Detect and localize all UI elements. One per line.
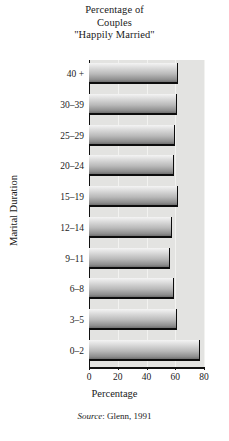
x-axis-tick (147, 367, 148, 370)
y-axis-tick-label: 3–5 (34, 309, 84, 333)
y-axis-tick-label: 30–39 (34, 94, 84, 118)
bar-row (89, 63, 204, 87)
bar (89, 309, 177, 330)
chart-title-line-3: "Happily Married" (0, 29, 229, 42)
bar (89, 94, 177, 115)
y-axis-tick-label: 0–2 (34, 340, 84, 364)
x-axis-title: Percentage (0, 388, 229, 399)
x-axis-tick-label: 0 (76, 372, 102, 382)
bar-row (89, 217, 204, 241)
bar (89, 340, 200, 361)
x-axis-tick (175, 367, 176, 370)
bar (89, 186, 178, 207)
y-axis-tick-label: 25–29 (34, 125, 84, 149)
x-axis-tick-label: 20 (105, 372, 131, 382)
chart-title: Percentage of Couples "Happily Married" (0, 4, 229, 42)
source-text: Glenn, 1991 (107, 411, 152, 421)
y-axis-tick-label: 6–8 (34, 278, 84, 302)
y-axis-tick-labels: 40 +30–3925–2920–2415–1912–149–116–83–50… (34, 60, 84, 367)
y-axis-tick-label: 40 + (34, 63, 84, 87)
x-axis-tick-label: 80 (191, 372, 217, 382)
y-axis-title: Marital Duration (8, 146, 19, 276)
y-axis-tick-label: 15–19 (34, 186, 84, 210)
chart-title-line-2: Couples (0, 17, 229, 30)
bar (89, 125, 175, 146)
x-axis-tick-label: 40 (134, 372, 160, 382)
x-axis-tick (89, 367, 90, 370)
source-note: Source: Glenn, 1991 (0, 411, 229, 421)
bar (89, 248, 170, 269)
bar-row (89, 186, 204, 210)
source-label: Source (78, 411, 103, 421)
bar-row (89, 248, 204, 272)
y-axis-tick-label: 9–11 (34, 248, 84, 272)
bar (89, 155, 174, 176)
x-axis-tick-label: 60 (162, 372, 188, 382)
y-axis-tick-label: 12–14 (34, 217, 84, 241)
bar-row (89, 340, 204, 364)
y-axis-tick-label: 20–24 (34, 155, 84, 179)
gridline (204, 60, 205, 367)
bar-row (89, 155, 204, 179)
bar-row (89, 278, 204, 302)
bar (89, 278, 174, 299)
bar (89, 63, 178, 84)
chart-title-line-1: Percentage of (0, 4, 229, 17)
x-axis-tick (204, 367, 205, 370)
plot-area (89, 60, 204, 367)
bar-series (89, 60, 204, 367)
bar-row (89, 309, 204, 333)
chart-container: Percentage of Couples "Happily Married" … (0, 0, 229, 441)
source-separator: : (102, 411, 105, 421)
bar-row (89, 94, 204, 118)
x-axis-tick (118, 367, 119, 370)
bar-row (89, 125, 204, 149)
bar (89, 217, 172, 238)
